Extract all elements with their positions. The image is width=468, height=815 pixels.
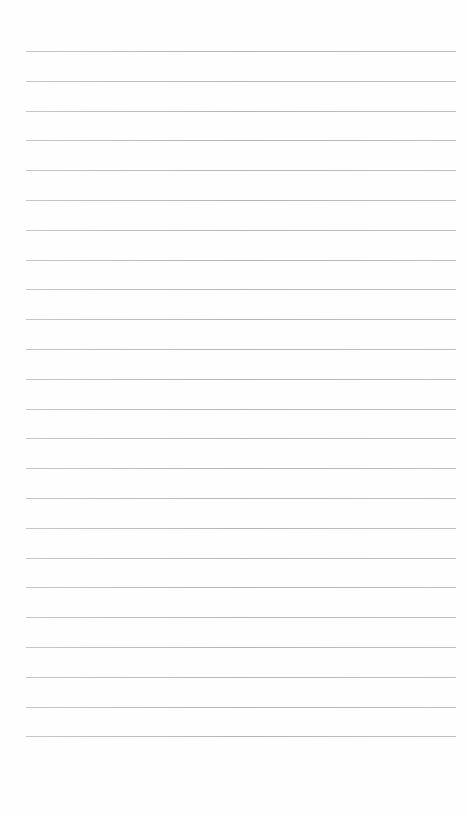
ruled-line bbox=[26, 707, 456, 708]
ruled-line bbox=[26, 170, 456, 171]
ruled-line bbox=[26, 736, 456, 737]
ruled-line bbox=[26, 587, 456, 588]
ruled-line bbox=[26, 319, 456, 320]
ruled-line bbox=[26, 617, 456, 618]
ruled-line bbox=[26, 260, 456, 261]
ruled-line bbox=[26, 230, 456, 231]
ruled-line bbox=[26, 51, 456, 52]
ruled-line bbox=[26, 289, 456, 290]
ruled-line bbox=[26, 558, 456, 559]
ruled-line bbox=[26, 349, 456, 350]
ruled-line bbox=[26, 409, 456, 410]
ruled-line bbox=[26, 468, 456, 469]
ruled-line bbox=[26, 528, 456, 529]
ruled-line bbox=[26, 111, 456, 112]
ruled-line bbox=[26, 677, 456, 678]
ruled-line bbox=[26, 647, 456, 648]
ruled-line bbox=[26, 81, 456, 82]
ruled-line bbox=[26, 438, 456, 439]
ruled-line bbox=[26, 498, 456, 499]
ruled-line bbox=[26, 379, 456, 380]
lined-paper-page bbox=[0, 0, 468, 815]
ruled-line bbox=[26, 140, 456, 141]
ruled-line bbox=[26, 200, 456, 201]
